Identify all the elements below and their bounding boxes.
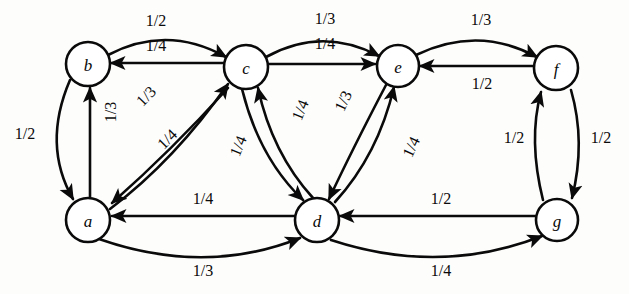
edge-weight-b-c: 1/2 xyxy=(146,12,166,29)
node-label-a: a xyxy=(84,212,93,231)
graph-diagram: bcefadg 1/21/41/31/41/31/21/21/31/31/41/… xyxy=(0,0,629,294)
edge-weight-e-d: 1/3 xyxy=(331,88,355,114)
node-f[interactable]: f xyxy=(534,46,578,90)
node-c[interactable]: c xyxy=(224,45,268,89)
edge-weight-a-d: 1/3 xyxy=(193,262,213,279)
edge-weight-b-a: 1/2 xyxy=(15,125,35,142)
node-g[interactable]: g xyxy=(536,199,578,241)
edge-weight-e-c: 1/4 xyxy=(315,35,335,52)
graph-canvas: bcefadg 1/21/41/31/41/31/21/21/31/31/41/… xyxy=(0,0,629,294)
edge-g-to-f xyxy=(535,92,543,200)
node-a[interactable]: a xyxy=(66,198,110,242)
node-e[interactable]: e xyxy=(377,45,419,87)
node-label-g: g xyxy=(553,212,562,231)
edge-weight-c-e: 1/3 xyxy=(315,10,335,27)
node-d[interactable]: d xyxy=(295,198,339,242)
edge-b-to-c xyxy=(108,40,226,57)
edge-weight-a-c: 1/3 xyxy=(133,83,159,110)
edge-weight-d-g: 1/4 xyxy=(431,262,451,279)
node-label-b: b xyxy=(84,56,93,75)
edge-weight-d-e: 1/4 xyxy=(399,134,423,160)
edge-weight-g-f: 1/2 xyxy=(504,129,524,146)
edge-weight-c-d: 1/4 xyxy=(226,133,249,158)
edge-b-to-a xyxy=(57,80,73,199)
edge-e-to-f xyxy=(416,40,537,57)
edge-weight-f-g: 1/2 xyxy=(591,129,611,146)
edge-f-to-g xyxy=(571,90,579,198)
node-label-e: e xyxy=(394,58,402,77)
nodes-layer: bcefadg xyxy=(66,42,578,242)
node-label-c: c xyxy=(242,59,250,78)
edge-weight-e-f: 1/3 xyxy=(471,11,491,28)
edge-weight-d-c: 1/4 xyxy=(288,97,311,122)
edge-weight-g-d: 1/2 xyxy=(431,190,451,207)
edge-a-to-d xyxy=(99,238,300,257)
node-b[interactable]: b xyxy=(66,42,110,86)
edge-d-to-g xyxy=(331,236,542,257)
edge-weight-c-b: 1/4 xyxy=(146,37,166,54)
edge-weight-f-e: 1/2 xyxy=(472,75,492,92)
node-label-d: d xyxy=(313,212,322,231)
edge-weight-d-a: 1/4 xyxy=(193,190,213,207)
edge-weight-a-b: 1/3 xyxy=(102,102,119,122)
